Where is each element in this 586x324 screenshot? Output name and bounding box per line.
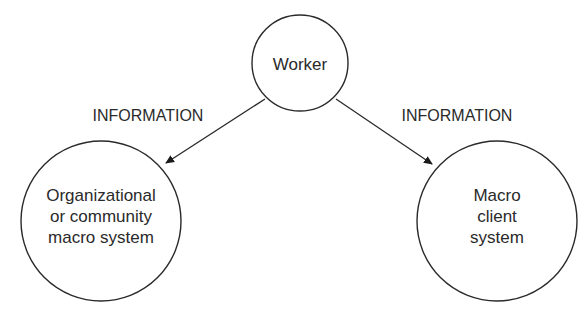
diagram-canvas: Worker Organizational or community macro…	[0, 0, 586, 324]
worker-label: Worker	[273, 55, 328, 74]
org-label-line-3: macro system	[48, 228, 154, 247]
edge-worker-to-client: INFORMATION	[336, 99, 512, 164]
org-label-line-1: Organizational	[46, 186, 156, 205]
edge-label-left: INFORMATION	[93, 107, 204, 124]
client-label-line-2: client	[477, 207, 517, 226]
edge-worker-to-org: INFORMATION	[93, 99, 265, 163]
client-label-line-3: system	[470, 228, 524, 247]
node-macro-client-system: Macro client system	[417, 141, 577, 301]
node-organizational-macro-system: Organizational or community macro system	[21, 141, 181, 301]
edge-label-right: INFORMATION	[402, 107, 513, 124]
node-worker: Worker	[252, 15, 348, 111]
client-label-line-1: Macro	[473, 186, 520, 205]
org-label-line-2: or community	[50, 207, 153, 226]
